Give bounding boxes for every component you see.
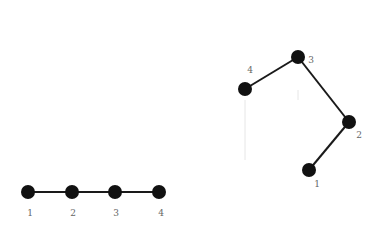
node-label-3: 3 — [113, 208, 119, 218]
node-2 — [342, 115, 356, 129]
chain-diagrams: 1 2 3 4 1 2 3 4 — [0, 0, 377, 231]
node-label-2: 2 — [356, 130, 362, 140]
faint-guides — [245, 90, 298, 160]
node-label-3: 3 — [308, 55, 314, 65]
node-label-4: 4 — [247, 65, 253, 75]
edge-1-2 — [309, 122, 349, 170]
edge-2-3 — [298, 57, 349, 122]
node-label-4: 4 — [158, 208, 164, 218]
node-2 — [65, 185, 79, 199]
node-label-1: 1 — [314, 179, 320, 189]
node-4 — [238, 82, 252, 96]
node-1 — [21, 185, 35, 199]
node-3 — [108, 185, 122, 199]
node-3 — [291, 50, 305, 64]
node-label-2: 2 — [70, 208, 76, 218]
node-label-1: 1 — [27, 208, 33, 218]
node-4 — [152, 185, 166, 199]
node-1 — [302, 163, 316, 177]
linear-chain: 1 2 3 4 — [21, 185, 166, 218]
edge-3-4 — [245, 57, 298, 89]
folded-chain: 1 2 3 4 — [238, 50, 362, 189]
